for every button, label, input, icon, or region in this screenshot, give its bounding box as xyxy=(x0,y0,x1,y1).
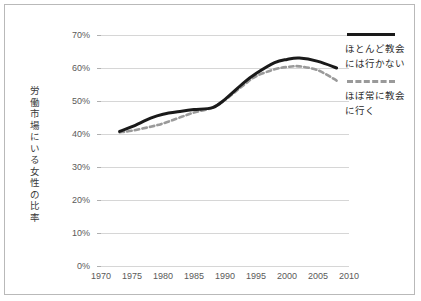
y-axis-tick-label: 50% xyxy=(72,96,90,106)
y-axis-tick-label: 20% xyxy=(72,195,90,205)
series-line xyxy=(120,66,337,132)
y-axis-tick-label: 40% xyxy=(72,129,90,139)
y-axis-tick-label: 0% xyxy=(77,261,90,271)
series-line xyxy=(120,58,337,131)
series-lines xyxy=(101,35,349,266)
gridline xyxy=(101,266,349,267)
legend-item[interactable]: ほとんど教会 には行かない xyxy=(345,33,421,71)
y-axis-tick-label: 30% xyxy=(72,162,90,172)
legend: ほとんど教会 には行かないほぼ常に教会 に行く xyxy=(345,29,421,127)
legend-swatch-dashed xyxy=(347,80,395,83)
y-axis-tick-label: 70% xyxy=(72,30,90,40)
legend-item[interactable]: ほぼ常に教会 に行く xyxy=(345,80,421,118)
legend-label: ほぼ常に教会 に行く xyxy=(345,88,421,118)
legend-swatch-solid xyxy=(347,33,395,36)
y-axis-title: 労働市場にいる女性の比率 xyxy=(27,85,43,223)
y-axis-tick-label: 10% xyxy=(72,228,90,238)
plot-area xyxy=(101,35,349,266)
legend-label: ほとんど教会 には行かない xyxy=(345,41,421,71)
chart-container: 労働市場にいる女性の比率 0%10%20%30%40%50%60%70% 197… xyxy=(4,4,415,295)
y-axis-tick-label: 60% xyxy=(72,63,90,73)
x-axis-tick-label: 2010 xyxy=(329,271,369,281)
